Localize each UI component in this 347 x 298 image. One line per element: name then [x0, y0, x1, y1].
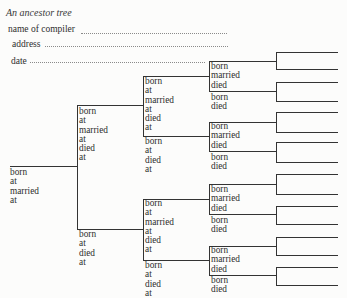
field-label: at — [10, 196, 39, 205]
person-gen4-2: born died — [211, 93, 228, 112]
person-gen3-3: born at married at died at — [145, 199, 174, 255]
gen5-bracket-3 — [276, 113, 338, 133]
person-gen3-1: born at married at died at — [145, 77, 174, 133]
person-gen4-6: born died — [211, 216, 228, 235]
field-label: at — [145, 165, 162, 174]
person-root: born at married at — [10, 168, 39, 205]
field-label: died — [211, 265, 240, 274]
gen5-bracket-7 — [276, 238, 338, 256]
person-father: born at married at died at — [79, 107, 108, 163]
field-label: at — [145, 289, 162, 298]
field-label: died — [211, 285, 228, 294]
person-gen3-4: born at died at — [145, 261, 162, 298]
field-label: at — [79, 153, 108, 162]
gen5-bracket-6 — [276, 207, 338, 225]
gen5-bracket-1 — [276, 53, 338, 70]
gen5-bracket-5 — [276, 175, 338, 195]
gen5-bracket-2 — [276, 83, 338, 102]
person-gen4-1: born married died — [211, 62, 240, 90]
person-gen4-8: born died — [211, 276, 228, 295]
person-gen4-3: born married died — [211, 122, 240, 150]
field-label: at — [145, 245, 174, 254]
person-gen4-4: born died — [211, 153, 228, 172]
field-label: died — [211, 141, 240, 150]
field-label: died — [211, 81, 240, 90]
gen5-bracket-4 — [276, 143, 338, 163]
person-mother: born at died at — [79, 230, 96, 267]
gen5-bracket-8 — [276, 268, 338, 286]
field-label: died — [211, 225, 228, 234]
field-label: died — [211, 162, 228, 171]
person-gen4-5: born married died — [211, 185, 240, 213]
field-label: died — [211, 204, 240, 213]
field-label: at — [79, 258, 96, 267]
person-gen4-7: born married died — [211, 246, 240, 274]
field-label: at — [145, 123, 174, 132]
field-label: died — [211, 102, 228, 111]
person-gen3-2: born at died at — [145, 137, 162, 174]
